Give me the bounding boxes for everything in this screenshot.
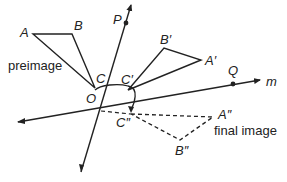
label-c1: C′ <box>121 72 133 87</box>
line-p <box>81 5 131 172</box>
label-c: C <box>96 71 106 86</box>
label-o: O <box>86 91 96 106</box>
triangle-first-image <box>128 48 201 90</box>
label-b2: B″ <box>175 143 189 158</box>
caption-final-image: final image <box>214 123 277 138</box>
label-a1: A′ <box>204 53 217 68</box>
label-a: A <box>19 25 29 40</box>
line-p-bottom-arrow-icon <box>79 164 84 172</box>
label-a2: A″ <box>217 107 232 122</box>
label-c2: C″ <box>116 115 130 130</box>
dashed-o-to-c2 <box>101 111 131 114</box>
label-p: P <box>113 12 122 27</box>
label-b1: B′ <box>160 32 172 47</box>
point-q <box>231 82 236 87</box>
triangle-final-image <box>131 114 213 140</box>
label-b: B <box>74 18 83 33</box>
label-m: m <box>266 74 277 89</box>
point-p <box>124 21 129 26</box>
label-q: Q <box>228 63 238 78</box>
reflection-diagram: A B C P C′ B′ A′ O Q m C″ A″ B″ preimage… <box>0 0 287 182</box>
rotation-arc-arrow-icon <box>128 106 134 113</box>
caption-preimage: preimage <box>8 58 62 73</box>
line-m-left-arrow-icon <box>17 118 25 124</box>
